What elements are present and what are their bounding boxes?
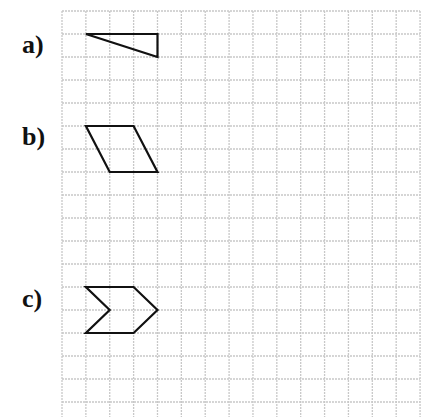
grid-paper xyxy=(0,0,436,417)
grid-lines xyxy=(62,11,420,417)
shape-parallelogram xyxy=(86,126,158,172)
shape-triangle xyxy=(86,34,158,57)
shapes xyxy=(86,34,158,333)
